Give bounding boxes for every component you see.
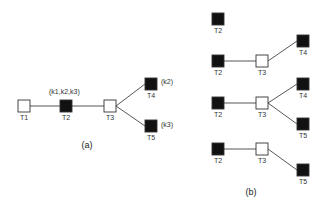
panel-b-caption: (b) <box>246 187 257 197</box>
node-label: T5 <box>299 132 307 139</box>
empty-square-icon <box>256 55 268 67</box>
node-label: T4 <box>147 92 155 99</box>
empty-square-icon <box>104 100 116 112</box>
node-label: T2 <box>214 157 222 164</box>
key-annotation: (k3) <box>161 121 173 129</box>
filled-square-icon <box>145 78 157 90</box>
filled-square-icon <box>212 143 224 155</box>
filled-square-icon <box>297 118 309 130</box>
key-annotation: (k2) <box>161 78 173 86</box>
node-label: T4 <box>299 49 307 56</box>
node-label: T2 <box>214 69 222 76</box>
node-label: T3 <box>258 69 266 76</box>
empty-square-icon <box>18 100 30 112</box>
node-label: T4 <box>299 92 307 99</box>
filled-square-icon <box>60 100 72 112</box>
tree-diagram: T1T2T3T4T5 (k1,k2,k3)(k2)(k3) (a) T2T2T3… <box>0 0 326 210</box>
filled-square-icon <box>297 35 309 47</box>
empty-square-icon <box>256 97 268 109</box>
node-label: T2 <box>214 27 222 34</box>
key-annotation: (k1,k2,k3) <box>49 88 80 96</box>
filled-square-icon <box>212 55 224 67</box>
filled-square-icon <box>212 97 224 109</box>
panel-a-caption: (a) <box>82 140 93 150</box>
node-label: T2 <box>214 111 222 118</box>
node-label: T3 <box>106 114 114 121</box>
node-label: T2 <box>62 114 70 121</box>
filled-square-icon <box>297 78 309 90</box>
node-label: T3 <box>258 157 266 164</box>
empty-square-icon <box>256 143 268 155</box>
filled-square-icon <box>145 120 157 132</box>
filled-square-icon <box>212 13 224 25</box>
node-label: T1 <box>20 114 28 121</box>
node-label: T3 <box>258 111 266 118</box>
node-label: T5 <box>147 134 155 141</box>
filled-square-icon <box>297 164 309 176</box>
background <box>0 0 326 210</box>
node-label: T5 <box>299 178 307 185</box>
